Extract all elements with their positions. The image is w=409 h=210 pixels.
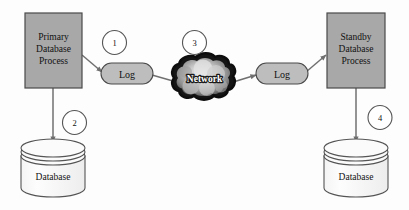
standby-database-label: Database xyxy=(339,172,374,182)
log-left-node[interactable]: Log xyxy=(101,63,153,84)
connector-primary-to-log xyxy=(82,55,102,72)
log-right-label: Log xyxy=(274,69,290,80)
step-3-number: 3 xyxy=(192,38,196,48)
primary-process-label-line1: Primary xyxy=(38,32,69,42)
standby-process-label-line1: Standby xyxy=(340,32,371,42)
replication-diagram: Primary Database Process Standby Databas… xyxy=(0,0,409,210)
log-left-label: Log xyxy=(119,69,135,80)
log-right-node[interactable]: Log xyxy=(256,63,308,84)
standby-process-label-line2: Database xyxy=(339,44,374,54)
primary-process-label-line2: Database xyxy=(36,44,71,54)
primary-process-label-line3: Process xyxy=(39,56,68,66)
step-marker-1[interactable]: 1 xyxy=(103,31,127,55)
network-cloud-label: Network xyxy=(187,74,223,84)
standby-database-ring-1 xyxy=(324,139,388,157)
step-2-number: 2 xyxy=(72,118,76,128)
primary-database-label: Database xyxy=(36,172,71,182)
step-marker-4[interactable]: 4 xyxy=(368,106,392,130)
primary-database-process-node[interactable]: Primary Database Process xyxy=(25,13,82,88)
step-1-number: 1 xyxy=(112,38,116,48)
step-marker-3[interactable]: 3 xyxy=(183,31,207,55)
primary-database-ring-1 xyxy=(21,139,85,157)
standby-database-node[interactable]: Database xyxy=(324,139,388,197)
primary-database-node[interactable]: Database xyxy=(21,139,85,197)
standby-process-label-line3: Process xyxy=(341,56,370,66)
step-marker-2[interactable]: 2 xyxy=(63,111,87,135)
connector-log-to-standby xyxy=(306,55,326,72)
network-cloud-node[interactable]: Network Network xyxy=(172,53,235,100)
standby-database-process-node[interactable]: Standby Database Process xyxy=(327,13,385,88)
